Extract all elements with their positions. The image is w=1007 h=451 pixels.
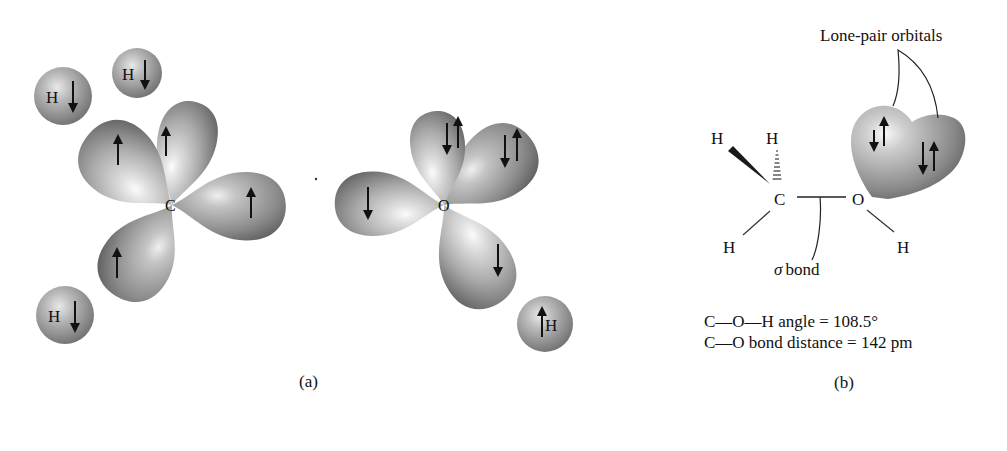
hydrogen-bottom-left: H (36, 286, 94, 344)
bond-data: C—O—H angle = 108.5° C—O bond distance =… (704, 311, 912, 353)
caption-b: (b) (834, 373, 854, 393)
atom-C: C (774, 190, 785, 209)
distance-line: C—O bond distance = 142 pm (704, 332, 912, 353)
svg-text:H: H (122, 65, 134, 84)
oxygen-atom-label: O (438, 197, 450, 214)
lone-pair-orbitals-shape (851, 106, 965, 199)
caption-a: (a) (299, 372, 318, 392)
angle-line: C—O—H angle = 108.5° (704, 311, 912, 332)
bond-O-H (867, 210, 894, 232)
atom-H-wedge: H (711, 129, 723, 148)
atom-H-dash: H (766, 129, 778, 148)
carbon-atom-label: C (165, 197, 176, 214)
sigma-bond-label: σbond (774, 260, 820, 279)
methanol-structure: Lone-pair orbitals C O H H H H σbond (711, 26, 965, 279)
svg-text:H: H (545, 316, 557, 335)
atom-H-hydroxyl: H (897, 238, 909, 257)
hashed-bond (773, 151, 782, 179)
lone-pair-leader-lines (893, 50, 938, 118)
orbital-diagram: C H H H (0, 0, 1007, 451)
oxygen-hybrid-orbitals: O (334, 108, 552, 321)
atom-H-lower: H (723, 238, 735, 257)
stray-dot (315, 178, 317, 180)
wedge-bond (728, 146, 770, 184)
bond-C-H (743, 211, 770, 235)
hydrogen-bottom-right: H (517, 296, 573, 352)
lone-pair-label: Lone-pair orbitals (820, 26, 942, 45)
carbon-hybrid-orbitals: C (64, 95, 287, 315)
svg-text:H: H (46, 88, 58, 107)
sigma-bond-leader (812, 197, 821, 260)
svg-text:H: H (48, 307, 60, 326)
hydrogen-top-left: H (34, 67, 92, 125)
hydrogen-top: H (112, 48, 162, 98)
atom-O: O (852, 190, 864, 209)
